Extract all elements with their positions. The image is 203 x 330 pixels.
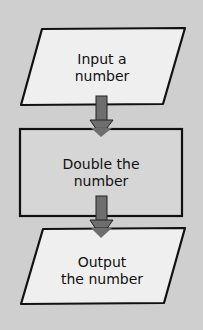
input-node-line1: Input a	[22, 51, 182, 68]
input-node-line2: number	[22, 68, 182, 85]
process-node-line1: Double the	[21, 156, 181, 173]
output-node-line2: the number	[22, 271, 182, 288]
input-node-label: Input a number	[22, 51, 182, 85]
output-node-line1: Output	[22, 254, 182, 271]
process-node-line2: number	[21, 173, 181, 190]
output-node-label: Output the number	[22, 254, 182, 288]
process-node-label: Double the number	[21, 156, 181, 190]
